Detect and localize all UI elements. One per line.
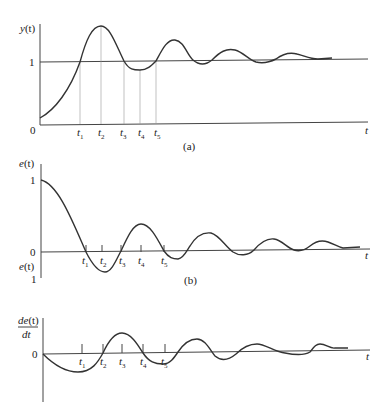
de-axis-label-numerator: de(t) [18,314,39,327]
panel-a: y(t) 1 0 t t1 t2 t3 t4 t5 (a) [19,22,369,153]
t-axis [41,249,370,252]
t-axis [40,122,368,125]
tick-label-1: 1 [30,174,36,186]
t-axis-label: t [365,124,369,136]
tick-label-1: 1 [29,56,35,68]
tick-label-0: 0 [30,246,36,258]
t-axis-label: t [365,249,369,261]
tick-t1: t1 [77,126,84,141]
e-axis-label: e(t) [19,157,35,170]
e-axis-label-lower: e(t) [19,260,35,273]
error-curve-e [41,180,360,272]
tick-t5: t5 [161,355,168,370]
caption-a: (a) [183,140,196,153]
tick-t3: t3 [119,355,126,370]
tick-t2: t2 [100,355,107,370]
tick-t5: t5 [154,126,161,141]
t-axis-label: t [366,350,370,362]
caption-b: (b) [184,274,197,287]
tick-label-0: 0 [32,348,38,360]
tick-t4: t4 [138,126,145,141]
tick-t3: t3 [119,254,126,269]
panel-c: de(t) dt 0 t t1 t2 t3 t4 t5 [18,314,370,402]
de-axis-label-denominator: dt [22,328,32,340]
tick-t2: t2 [100,254,107,269]
tick-label-0: 0 [30,124,36,136]
tick-t1: t1 [79,355,86,370]
t-axis [43,350,370,354]
response-curve-y [40,26,332,118]
y-axis-label: y(t) [19,22,36,35]
tick-t5: t5 [161,254,168,269]
tick-t3: t3 [120,126,127,141]
tick-t4: t4 [138,254,145,269]
step-response-figure: y(t) 1 0 t t1 t2 t3 t4 t5 (a) e(t) 1 0 e… [0,0,388,402]
tick-t2: t2 [98,126,105,141]
tick-label-1-lower: 1 [31,273,37,285]
panel-b: e(t) 1 0 e(t) 1 t t1 t2 t3 t4 t5 (b) [19,157,370,287]
